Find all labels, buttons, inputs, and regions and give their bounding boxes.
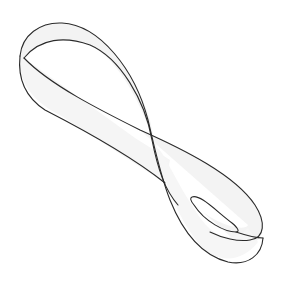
mobius-strip-illustration	[0, 0, 281, 287]
mobius-strip-drawing	[0, 0, 281, 287]
